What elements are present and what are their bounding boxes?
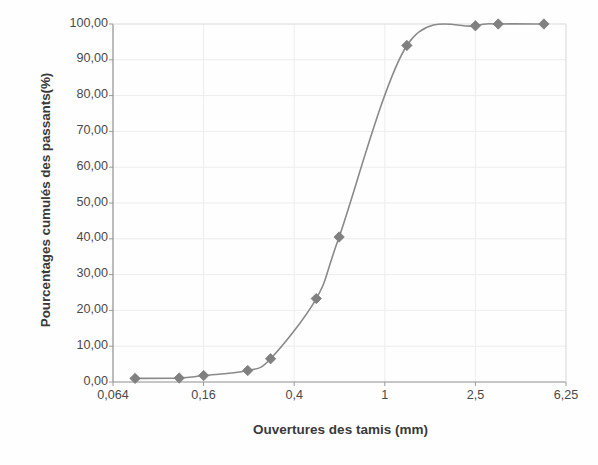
data-point-marker: [198, 370, 208, 380]
data-line: [135, 24, 544, 379]
data-point-marker: [402, 40, 412, 50]
x-axis-title: Ouvertures des tamis (mm): [113, 422, 568, 437]
data-point-marker: [493, 19, 503, 29]
data-point-marker: [243, 365, 253, 375]
plot-area: [0, 0, 598, 465]
data-point-marker: [334, 232, 344, 242]
data-point-marker: [539, 19, 549, 29]
gridlines: [113, 24, 566, 382]
data-markers: [130, 19, 549, 384]
data-point-marker: [311, 293, 321, 303]
axis-frame: [109, 24, 566, 386]
data-point-marker: [470, 21, 480, 31]
chart-figure: Pourcentages cumulés des passants(%) 0,0…: [0, 0, 598, 465]
